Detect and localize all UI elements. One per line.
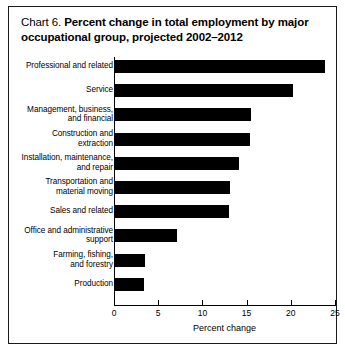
category-label-line: Installation, maintenance, [9, 153, 113, 163]
category-label-line: and forestry [9, 260, 113, 270]
category-label: Construction andextraction [9, 129, 113, 148]
x-axis-tick [158, 300, 159, 306]
x-axis-tick-label: 20 [276, 308, 306, 318]
x-axis-tick [114, 300, 115, 306]
chart-frame: Chart 6. Percent change in total employm… [8, 6, 337, 344]
bar [115, 84, 293, 97]
bar [115, 60, 325, 73]
chart-title: Chart 6. Percent change in total employm… [21, 15, 329, 45]
bar [115, 278, 144, 291]
category-label-line: Production [9, 279, 113, 289]
category-label-line: extraction [9, 139, 113, 149]
category-label: Farming, fishing,and forestry [9, 250, 113, 269]
bar [115, 157, 239, 170]
x-axis-tick [247, 300, 248, 306]
x-axis-tick [202, 300, 203, 306]
category-label: Professional and related [9, 61, 113, 71]
x-axis-tick-label: 15 [232, 308, 262, 318]
x-axis-line [114, 305, 335, 306]
x-axis-tick-label: 5 [143, 308, 173, 318]
category-label: Production [9, 279, 113, 289]
category-label-line: and repair [9, 163, 113, 173]
x-axis-title: Percent change [114, 323, 335, 333]
category-label-line: Transportation and [9, 177, 113, 187]
chart-title-prefix: Chart 6. [21, 16, 61, 28]
x-axis-tick [291, 300, 292, 306]
bar [115, 229, 177, 242]
category-label-line: Office and administrative [9, 226, 113, 236]
bar [115, 254, 145, 267]
category-label: Service [9, 85, 113, 95]
bar [115, 181, 230, 194]
category-labels: Professional and relatedServiceManagemen… [9, 57, 113, 305]
bar [115, 133, 250, 146]
category-label-line: Construction and [9, 129, 113, 139]
category-label-line: support [9, 235, 113, 245]
x-axis-tick-label: 25 [320, 308, 345, 318]
bar [115, 205, 229, 218]
category-label: Transportation andmaterial moving [9, 177, 113, 196]
x-axis-tick-label: 0 [99, 308, 129, 318]
category-label-line: Service [9, 85, 113, 95]
axis-area: Percent change 0510152025 [114, 57, 338, 345]
bars-layer [115, 57, 338, 305]
category-label: Sales and related [9, 206, 113, 216]
plot-region: Professional and relatedServiceManagemen… [9, 57, 338, 345]
category-label-line: Farming, fishing, [9, 250, 113, 260]
category-label: Management, business,and financial [9, 105, 113, 124]
x-axis-tick-label: 10 [187, 308, 217, 318]
category-label-line: Management, business, [9, 105, 113, 115]
category-label: Office and administrativesupport [9, 226, 113, 245]
category-label: Installation, maintenance,and repair [9, 153, 113, 172]
bar [115, 108, 251, 121]
category-label-line: material moving [9, 187, 113, 197]
category-label-line: and financial [9, 114, 113, 124]
category-label-line: Professional and related [9, 61, 113, 71]
x-axis-tick [335, 300, 336, 306]
category-label-line: Sales and related [9, 206, 113, 216]
chart-title-text: Percent change in total employment by ma… [21, 16, 309, 43]
